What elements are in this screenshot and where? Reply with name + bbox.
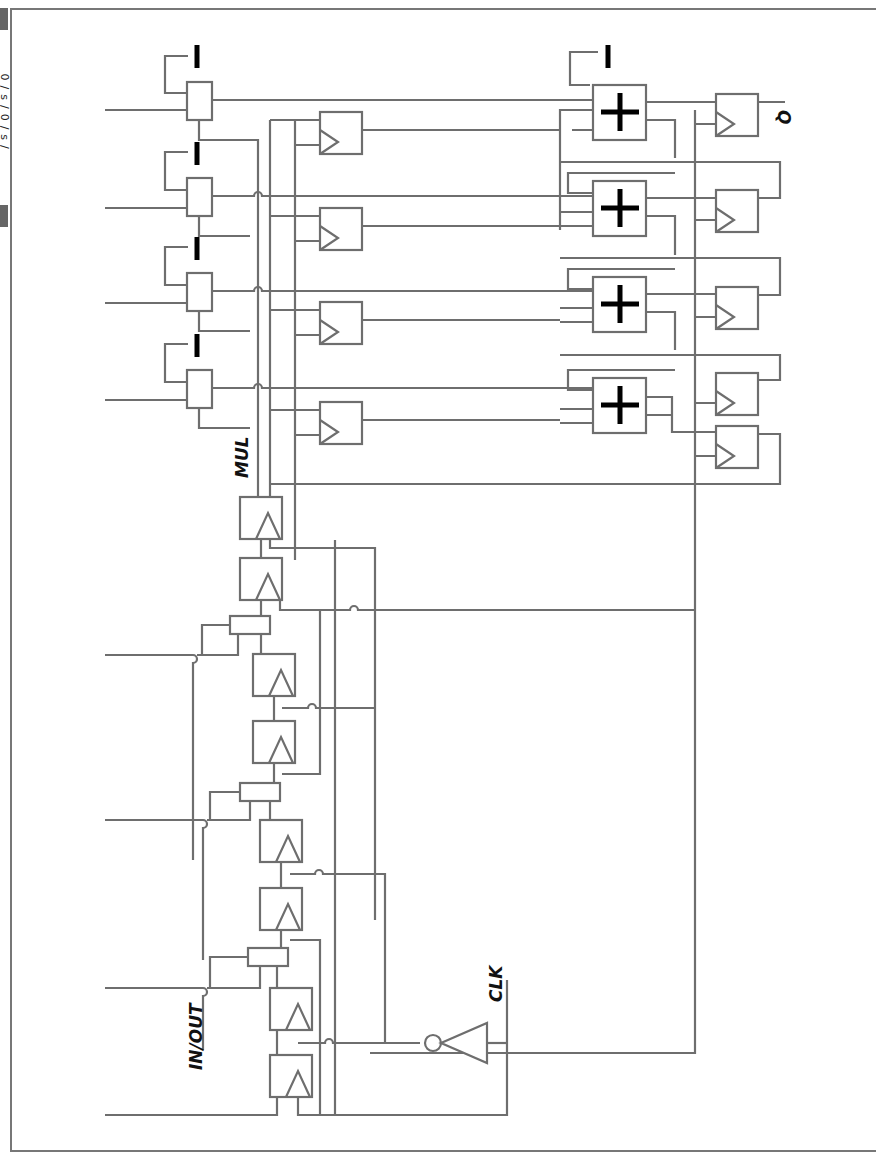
adder-column — [560, 45, 716, 433]
mul-label: MUL — [232, 436, 252, 478]
flip-flop — [260, 820, 302, 862]
flip-flop — [270, 1055, 312, 1097]
mux-block — [187, 273, 212, 311]
in-out-label: IN/OUT — [186, 1002, 206, 1070]
mux-block — [187, 370, 212, 408]
flip-flop — [270, 988, 312, 1030]
mux-block — [187, 178, 212, 216]
clk-label: CLK — [486, 964, 506, 1002]
mux-block — [187, 82, 212, 120]
flip-flop — [240, 497, 282, 539]
inverter-triangle — [441, 1023, 487, 1063]
flip-flop — [253, 721, 295, 763]
mux-block — [230, 616, 270, 634]
flip-flop — [240, 558, 282, 600]
mux-block — [240, 783, 280, 801]
circuit-schematic: Q — [0, 0, 887, 1160]
flip-flop — [253, 654, 295, 696]
clock-inverter — [425, 1023, 507, 1063]
output-q-label: Q — [774, 110, 794, 124]
flip-flop — [260, 888, 302, 930]
mid-register-column — [270, 112, 560, 560]
mux-block — [248, 948, 288, 966]
